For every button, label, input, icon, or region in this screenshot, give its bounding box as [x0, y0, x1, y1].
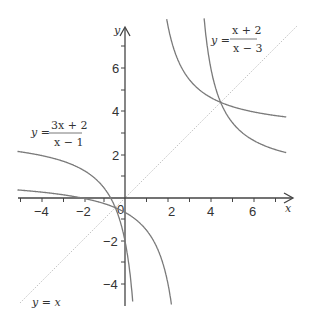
y-tick-label: 6 [112, 61, 119, 76]
y-axis-label: y [113, 24, 121, 37]
x-tick-label: 4 [207, 204, 214, 219]
svg-text:y =: y = [30, 126, 50, 139]
curve-3x-plus-2-over-x-minus-1 [18, 19, 287, 301]
y-tick-label: 2 [112, 148, 119, 163]
x-axis-label: x [285, 202, 292, 215]
svg-text:x + 2: x + 2 [232, 24, 261, 37]
equation-label-y-equals-x: y = x [31, 296, 61, 309]
y-tick-label: −2 [103, 234, 118, 249]
svg-text:y =: y = [210, 34, 230, 47]
svg-text:3x + 2: 3x + 2 [51, 119, 87, 132]
x-tick-label: −2 [76, 204, 91, 219]
y-tick-label: −4 [103, 277, 118, 292]
line-y-equals-x [20, 26, 297, 303]
x-tick-label: 6 [249, 204, 256, 219]
y-tick-label: 4 [112, 104, 119, 119]
svg-text:x − 3: x − 3 [233, 42, 262, 55]
curve-x-plus-2-over-x-minus-3 [18, 18, 287, 304]
equation-label-1: y = 3x + 2 x − 1 [30, 119, 87, 149]
x-tick-label: 2 [168, 204, 175, 219]
equation-label-2: y = x + 2 x − 3 [210, 24, 262, 55]
graph: −4 −2 2 4 6 0 6 4 2 −2 −4 x y y = 3x + 2… [0, 0, 312, 321]
svg-text:x − 1: x − 1 [54, 136, 83, 149]
x-tick-label: −4 [34, 204, 49, 219]
